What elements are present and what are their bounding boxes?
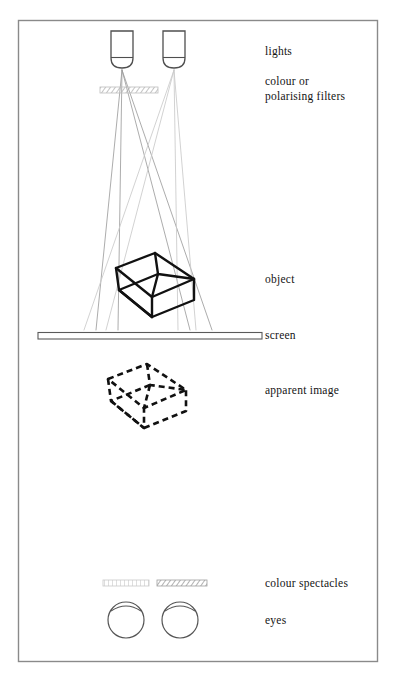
label-eyes: eyes [265, 613, 286, 628]
apparent-image-cube [108, 364, 186, 428]
eye-right [162, 602, 198, 638]
label-apparent-image: apparent image [265, 383, 339, 398]
screen-bar [38, 333, 262, 340]
label-colour-or-polarising-filters: colour or polarising filters [265, 74, 345, 103]
stereoscopic-projection-diagram: lights colour or polarising filters obje… [0, 0, 402, 683]
eyes-group [108, 602, 198, 638]
spectacle-filter-left [103, 580, 149, 586]
label-colour-spectacles: colour spectacles [265, 576, 348, 591]
diagram-frame [19, 21, 378, 662]
label-object: object [265, 272, 295, 287]
projection-filter-bar [100, 87, 158, 93]
object-cube [116, 253, 194, 317]
label-screen: screen [265, 328, 296, 343]
eye-left [108, 602, 144, 638]
lamp-left-body [111, 31, 133, 68]
lamp-right-body [163, 31, 185, 68]
label-lights: lights [265, 44, 292, 59]
spectacle-filters [103, 580, 207, 586]
ray-bundle-right [84, 70, 196, 330]
spectacle-filter-right [157, 580, 207, 586]
light-sources [111, 31, 185, 68]
